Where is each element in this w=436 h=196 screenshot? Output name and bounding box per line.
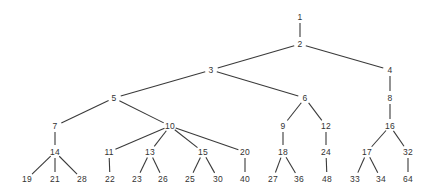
tree-node-18: 18 — [278, 147, 288, 157]
tree-node-6: 6 — [303, 93, 308, 103]
tree-node-26: 26 — [158, 174, 168, 184]
tree-node-27: 27 — [268, 174, 278, 184]
tree-node-16: 16 — [385, 121, 395, 131]
tree-node-2: 2 — [298, 39, 303, 49]
tree-node-14: 14 — [50, 147, 60, 157]
tree-node-34: 34 — [376, 174, 386, 184]
tree-node-24: 24 — [321, 147, 331, 157]
tree-node-11: 11 — [104, 147, 113, 157]
tree-node-9: 9 — [281, 121, 286, 131]
tree-node-8: 8 — [388, 93, 393, 103]
tree-node-20: 20 — [240, 147, 250, 157]
tree-node-36: 36 — [294, 174, 304, 184]
tree-node-23: 23 — [132, 174, 142, 184]
tree-node-12: 12 — [321, 121, 331, 131]
tree-node-13: 13 — [145, 147, 155, 157]
tree-node-32: 32 — [403, 147, 413, 157]
tree-node-40: 40 — [240, 174, 250, 184]
tree-node-17: 17 — [362, 147, 372, 157]
tree-node-64: 64 — [403, 174, 413, 184]
tree-node-5: 5 — [112, 93, 117, 103]
tree-node-10: 10 — [165, 121, 175, 131]
tree-node-21: 21 — [50, 174, 60, 184]
tree-diagram: 1234568710912161411131520182417321921282… — [0, 0, 436, 196]
tree-node-28: 28 — [77, 174, 87, 184]
tree-node-22: 22 — [105, 174, 115, 184]
tree-node-1: 1 — [298, 12, 303, 22]
tree-node-19: 19 — [22, 174, 32, 184]
tree-node-48: 48 — [322, 174, 332, 184]
tree-node-15: 15 — [198, 147, 208, 157]
tree-node-33: 33 — [350, 174, 360, 184]
tree-node-7: 7 — [53, 121, 58, 131]
tree-node-4: 4 — [388, 65, 393, 75]
tree-node-30: 30 — [213, 174, 223, 184]
tree-node-layer: 1234568710912161411131520182417321921282… — [0, 0, 436, 196]
tree-node-3: 3 — [209, 65, 214, 75]
tree-node-25: 25 — [185, 174, 195, 184]
